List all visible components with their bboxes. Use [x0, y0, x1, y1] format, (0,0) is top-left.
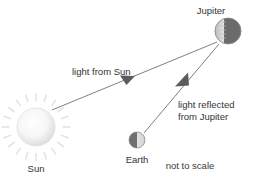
ray-label-light-reflected-line2: from Jupiter: [178, 111, 228, 122]
jupiter-shadow-half: [224, 16, 245, 46]
ray-arrowhead-icon: [175, 73, 189, 87]
diagram-canvas: Sun light from Sun light reflected from …: [0, 0, 256, 184]
ray-label-light-from-sun: light from Sun: [72, 66, 131, 77]
earth-body: [126, 131, 145, 149]
scale-note: not to scale: [166, 160, 215, 171]
sun-body: [2, 93, 71, 161]
earth-label: Earth: [126, 154, 149, 165]
jupiter-body: [213, 16, 245, 46]
sun-disc: [17, 108, 55, 146]
astronomy-ray-diagram: Sun light from Sun light reflected from …: [0, 0, 256, 184]
jupiter-label: Jupiter: [197, 5, 226, 16]
ray-label-light-reflected-line1: light reflected: [178, 99, 235, 110]
sun-label: Sun: [28, 163, 45, 174]
